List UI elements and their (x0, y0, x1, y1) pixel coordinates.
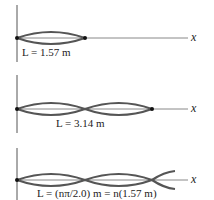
x-axis-label-3: x (191, 172, 196, 187)
x-axis-label-2: x (191, 101, 196, 116)
standing-wave-diagram (0, 0, 214, 200)
length-label-1: L = 1.57 m (22, 46, 71, 58)
length-label-3: L = (nπ/2.0) m = n(1.57 m) (37, 187, 157, 199)
length-label-2: L = 3.14 m (56, 117, 105, 129)
x-axis-label-1: x (191, 30, 196, 45)
